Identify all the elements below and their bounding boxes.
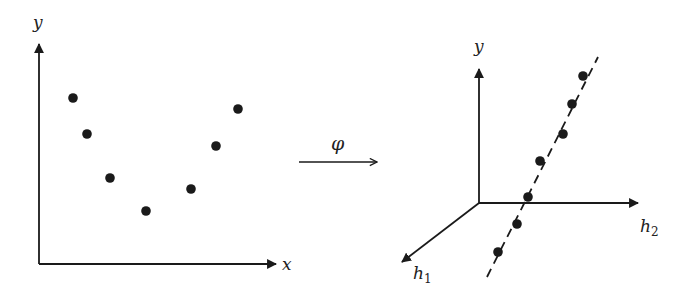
data-point <box>82 129 92 139</box>
data-point <box>523 192 533 202</box>
feature-space-plot: y h2 h1 <box>402 36 659 286</box>
h2-axis-label: h2 <box>640 216 659 239</box>
h1-axis <box>402 203 479 262</box>
y-axis-label: y <box>32 12 43 32</box>
data-point <box>493 247 503 257</box>
input-data-points <box>68 93 243 216</box>
x-axis-label: x <box>282 254 292 274</box>
data-point <box>558 129 568 139</box>
data-point <box>578 71 588 81</box>
data-point <box>535 156 545 166</box>
data-point <box>233 104 243 114</box>
data-point <box>141 206 151 216</box>
phi-label: φ <box>331 132 345 154</box>
input-space-plot: y x <box>32 12 292 274</box>
h1-axis-label: h1 <box>413 263 432 286</box>
data-point <box>211 141 221 151</box>
data-point <box>186 184 196 194</box>
feature-map-arrow: φ <box>299 132 377 162</box>
feature-data-points <box>493 71 588 257</box>
kernel-mapping-diagram: y x φ y h2 h1 <box>0 0 678 298</box>
data-point <box>512 219 522 229</box>
linear-separator-dashed-line <box>487 57 598 277</box>
y-axis-3d-label: y <box>473 36 484 56</box>
data-point <box>68 93 78 103</box>
data-point <box>105 173 115 183</box>
data-point <box>567 99 577 109</box>
